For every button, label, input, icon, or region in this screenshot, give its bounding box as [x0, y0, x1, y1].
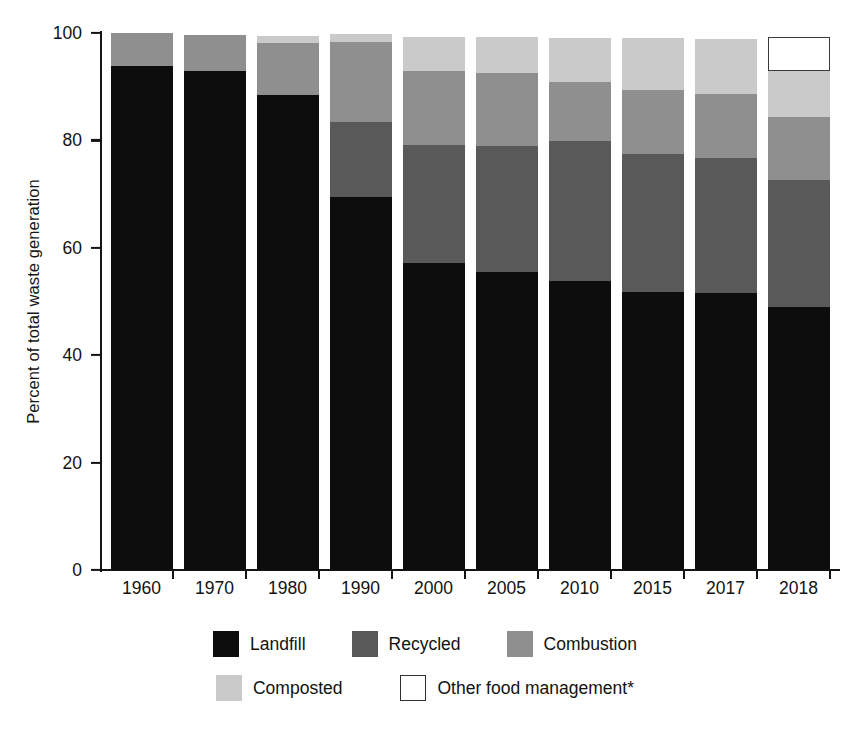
chart-legend: LandfillRecycledCombustion CompostedOthe… — [0, 622, 850, 710]
y-tick-label: 40 — [26, 345, 82, 366]
bar-segment-landfill — [622, 292, 684, 570]
legend-swatch-icon — [216, 675, 242, 701]
bar-segment-recycled — [768, 180, 830, 307]
bar-stack — [257, 36, 319, 570]
x-tick-label: 1970 — [184, 578, 246, 599]
bar-segment-combustion — [184, 35, 246, 70]
x-tick-label: 2018 — [768, 578, 830, 599]
bar-segment-landfill — [330, 197, 392, 570]
bar-stack — [111, 33, 173, 570]
y-axis-line — [100, 31, 102, 572]
legend-label: Recycled — [389, 634, 461, 655]
y-tick-mark — [91, 354, 100, 356]
bar-segment-recycled — [695, 158, 757, 293]
legend-row-1: LandfillRecycledCombustion — [0, 622, 850, 666]
bar-segment-composted — [695, 39, 757, 94]
x-tick-label: 2017 — [695, 578, 757, 599]
y-tick-label: 0 — [26, 560, 82, 581]
x-tick-label: 1990 — [330, 578, 392, 599]
legend-swatch-icon — [507, 631, 533, 657]
y-tick-label: 100 — [26, 23, 82, 44]
bar-stack — [184, 35, 246, 570]
bar-segment-recycled — [330, 122, 392, 197]
bar-segment-composted — [768, 71, 830, 117]
legend-item: Composted — [216, 675, 343, 701]
y-axis-title: Percent of total waste generation — [18, 33, 48, 570]
legend-item: Other food management* — [400, 675, 634, 701]
y-tick-mark — [91, 247, 100, 249]
bar-segment-recycled — [622, 154, 684, 292]
legend-label: Composted — [253, 678, 343, 699]
bar-segment-composted — [622, 38, 684, 90]
bar-segment-composted — [403, 37, 465, 71]
y-tick-label: 80 — [26, 130, 82, 151]
bar-segment-landfill — [695, 293, 757, 570]
bar-stack — [695, 39, 757, 570]
bar-stack — [549, 38, 611, 570]
x-tick-label: 1980 — [257, 578, 319, 599]
x-tick-label: 2010 — [549, 578, 611, 599]
legend-swatch-icon — [213, 631, 239, 657]
legend-item: Landfill — [213, 631, 305, 657]
legend-swatch-icon — [352, 631, 378, 657]
bar-segment-combustion — [622, 90, 684, 153]
x-tick-label: 2015 — [622, 578, 684, 599]
bar-segment-landfill — [403, 263, 465, 570]
bar-segment-recycled — [476, 146, 538, 272]
x-tick-label: 1960 — [111, 578, 173, 599]
bar-segment-combustion — [549, 82, 611, 141]
y-tick-mark — [91, 569, 100, 571]
legend-label: Combustion — [544, 634, 637, 655]
bar-segment-combustion — [403, 71, 465, 145]
y-tick-mark — [91, 32, 100, 34]
legend-item: Combustion — [507, 631, 637, 657]
bar-segment-landfill — [111, 66, 173, 570]
bar-stack — [403, 37, 465, 570]
bar-segment-combustion — [111, 33, 173, 66]
legend-item: Recycled — [352, 631, 461, 657]
stacked-bar-chart: Percent of total waste generation 020406… — [0, 0, 850, 733]
bar-segment-recycled — [549, 141, 611, 281]
bar-segment-composted — [330, 34, 392, 42]
bar-segment-combustion — [476, 73, 538, 145]
bar-segment-landfill — [476, 272, 538, 570]
plot-area — [105, 33, 835, 570]
y-tick-mark — [91, 462, 100, 464]
bar-segment-landfill — [549, 281, 611, 570]
bar-segment-landfill — [768, 307, 830, 570]
legend-swatch-icon — [400, 675, 426, 701]
legend-row-2: CompostedOther food management* — [0, 666, 850, 710]
y-tick-label: 60 — [26, 237, 82, 258]
bar-segment-landfill — [257, 95, 319, 570]
bar-segment-landfill — [184, 71, 246, 570]
x-tick-label: 2005 — [476, 578, 538, 599]
bar-stack — [622, 38, 684, 570]
bar-segment-composted — [476, 37, 538, 74]
bar-stack — [768, 37, 830, 570]
y-tick-mark — [91, 139, 100, 141]
y-tick-label: 20 — [26, 452, 82, 473]
bar-segment-combustion — [257, 43, 319, 95]
legend-label: Landfill — [250, 634, 305, 655]
bar-segment-composted — [549, 38, 611, 83]
bar-segment-combustion — [695, 94, 757, 158]
bar-segment-combustion — [330, 42, 392, 123]
legend-label: Other food management* — [437, 678, 634, 699]
bar-stack — [476, 37, 538, 570]
x-tick-label: 2000 — [403, 578, 465, 599]
bar-segment-combustion — [768, 117, 830, 180]
bar-segment-recycled — [403, 145, 465, 263]
bar-stack — [330, 34, 392, 570]
bar-segment-composted — [257, 36, 319, 44]
bar-segment-other-food-management — [768, 37, 830, 71]
